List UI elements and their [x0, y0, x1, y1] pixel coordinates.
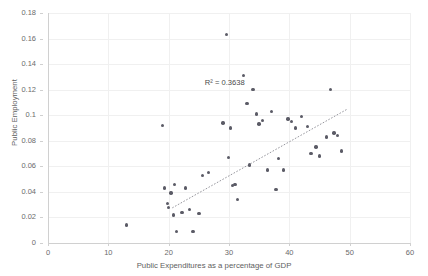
data-point	[180, 211, 183, 214]
data-point	[257, 122, 260, 125]
x-axis-tick	[289, 243, 290, 246]
data-point	[261, 119, 264, 122]
data-point	[197, 212, 200, 215]
data-point	[167, 206, 170, 209]
r-squared-annotation: R² = 0.3638	[205, 78, 245, 87]
x-axis-tick-label: 0	[33, 249, 63, 257]
data-point	[207, 171, 210, 174]
data-point	[300, 115, 303, 118]
data-point	[184, 186, 187, 189]
data-point	[225, 33, 228, 36]
data-point	[229, 126, 232, 129]
x-axis-tick-label: 50	[335, 249, 365, 257]
x-axis-tick-label: 30	[214, 249, 244, 257]
x-axis-tick	[48, 243, 49, 246]
x-axis-tick-label: 40	[274, 249, 304, 257]
data-point	[309, 152, 312, 155]
data-point	[169, 191, 172, 194]
data-point	[161, 124, 164, 127]
x-axis-tick	[169, 243, 170, 246]
data-point	[221, 121, 224, 124]
y-axis-tick	[40, 166, 43, 167]
data-point	[245, 102, 248, 105]
y-axis-tick-label: 0.06	[2, 162, 36, 170]
y-axis-tick-label: 0.16	[2, 35, 36, 43]
gridline-vertical	[289, 13, 290, 243]
data-point	[274, 188, 277, 191]
x-axis-tick-label: 20	[154, 249, 184, 257]
y-axis-tick	[40, 90, 43, 91]
y-axis-tick	[40, 64, 43, 65]
y-axis-tick	[40, 243, 43, 244]
y-axis-tick-label: 0.02	[2, 213, 36, 221]
data-point	[172, 213, 175, 216]
y-axis-tick-label: 0.14	[2, 60, 36, 68]
data-point	[188, 208, 191, 211]
data-point	[248, 163, 251, 166]
data-point	[251, 88, 254, 91]
gridline-vertical	[350, 13, 351, 243]
x-axis-tick-label: 10	[93, 249, 123, 257]
data-point	[290, 120, 293, 123]
plot-area	[48, 13, 410, 243]
data-point	[173, 183, 176, 186]
y-axis-tick	[40, 115, 43, 116]
y-axis-tick	[40, 192, 43, 193]
data-point	[282, 168, 285, 171]
y-axis-line	[48, 13, 49, 244]
data-point	[236, 198, 239, 201]
data-point	[294, 126, 297, 129]
data-point	[233, 183, 236, 186]
data-point	[201, 174, 204, 177]
y-axis-tick-label: 0.04	[2, 188, 36, 196]
x-axis-tick	[410, 243, 411, 246]
data-point	[266, 168, 269, 171]
data-point	[314, 145, 317, 148]
gridline-vertical	[410, 13, 411, 243]
data-point	[277, 157, 280, 160]
x-axis-tick	[229, 243, 230, 246]
y-axis-tick-label: 0.18	[2, 9, 36, 17]
y-axis-tick	[40, 13, 43, 14]
data-point	[242, 74, 245, 77]
x-axis-tick-label: 60	[395, 249, 425, 257]
data-point	[270, 110, 273, 113]
data-point	[340, 149, 343, 152]
y-axis-tick	[40, 141, 43, 142]
gridline-vertical	[108, 13, 109, 243]
x-axis-tick	[350, 243, 351, 246]
y-axis-tick-label: 0.12	[2, 86, 36, 94]
scatter-chart: Public Employment Public Expenditures as…	[0, 0, 428, 276]
y-axis-tick-label: 0.08	[2, 137, 36, 145]
data-point	[163, 186, 166, 189]
data-point	[306, 125, 309, 128]
y-axis-tick-label: 0.1	[2, 111, 36, 119]
data-point	[325, 135, 328, 138]
data-point	[329, 88, 332, 91]
data-point	[175, 230, 178, 233]
data-point	[191, 230, 194, 233]
y-axis-tick-label: 0	[2, 239, 36, 247]
data-point	[318, 154, 321, 157]
data-point	[125, 223, 128, 226]
y-axis-tick	[40, 39, 43, 40]
x-axis-title: Public Expenditures as a percentage of G…	[0, 261, 428, 270]
data-point	[336, 134, 339, 137]
x-axis-tick	[108, 243, 109, 246]
y-axis-tick	[40, 217, 43, 218]
